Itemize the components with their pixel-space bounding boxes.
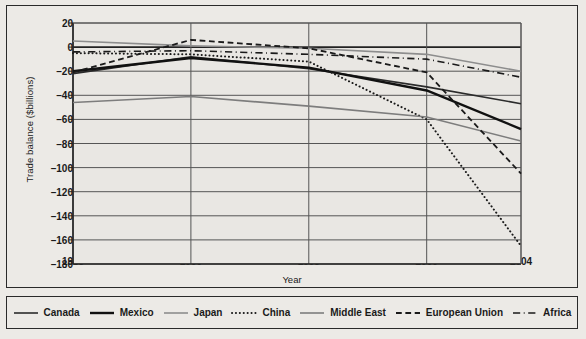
legend-item-european-union[interactable]: European Union <box>395 307 503 318</box>
legend-swatch-icon <box>163 308 189 318</box>
legend-item-middle-east[interactable]: Middle East <box>299 307 386 318</box>
legend-swatch-icon <box>89 308 115 318</box>
chart-screenshot: Trade balance ($billions) Year 200–20–40… <box>0 0 586 339</box>
chart-legend: CanadaMexicoJapanChinaMiddle EastEuropea… <box>6 296 578 329</box>
legend-item-canada[interactable]: Canada <box>13 307 80 318</box>
legend-swatch-icon <box>231 308 257 318</box>
legend-item-mexico[interactable]: Mexico <box>89 307 154 318</box>
legend-swatch-icon <box>299 308 325 318</box>
legend-item-africa[interactable]: Africa <box>512 307 571 318</box>
chart-panel: Trade balance ($billions) Year 200–20–40… <box>6 5 578 288</box>
legend-item-china[interactable]: China <box>231 307 290 318</box>
legend-label: European Union <box>426 307 503 318</box>
legend-label: Middle East <box>330 307 386 318</box>
line-chart-plot <box>7 6 577 287</box>
legend-swatch-icon <box>13 308 39 318</box>
legend-label: Canada <box>44 307 80 318</box>
legend-label: Mexico <box>120 307 154 318</box>
legend-label: Africa <box>543 307 571 318</box>
legend-item-japan[interactable]: Japan <box>163 307 223 318</box>
legend-swatch-icon <box>512 308 538 318</box>
legend-label: China <box>262 307 290 318</box>
legend-swatch-icon <box>395 308 421 318</box>
legend-label: Japan <box>194 307 223 318</box>
